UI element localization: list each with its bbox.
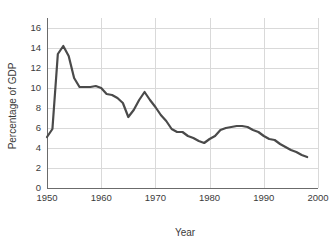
- x-axis-title: Year: [175, 227, 196, 238]
- svg-text:1990: 1990: [253, 192, 274, 203]
- svg-text:1980: 1980: [199, 192, 220, 203]
- svg-text:10: 10: [30, 82, 41, 93]
- svg-text:16: 16: [30, 22, 41, 33]
- line-chart: 0246810121416 195019601970198019902000 P…: [0, 0, 331, 242]
- axis-lines: [48, 18, 319, 189]
- svg-text:2: 2: [36, 162, 41, 173]
- svg-text:12: 12: [30, 62, 41, 73]
- y-axis-tick-labels: 0246810121416: [30, 22, 41, 193]
- svg-text:2000: 2000: [307, 192, 328, 203]
- svg-text:6: 6: [36, 122, 41, 133]
- svg-text:8: 8: [36, 102, 41, 113]
- horizontal-gridlines: [47, 29, 318, 169]
- vertical-gridlines: [102, 18, 319, 188]
- x-axis-tick-labels: 195019601970198019902000: [36, 192, 328, 203]
- svg-text:1970: 1970: [145, 192, 166, 203]
- svg-text:1950: 1950: [36, 192, 57, 203]
- y-axis-title: Percentage of GDP: [7, 62, 18, 149]
- svg-text:1960: 1960: [91, 192, 112, 203]
- svg-text:4: 4: [36, 142, 41, 153]
- chart-container: 0246810121416 195019601970198019902000 P…: [0, 0, 331, 242]
- svg-text:14: 14: [30, 42, 41, 53]
- data-series-line: [47, 46, 307, 157]
